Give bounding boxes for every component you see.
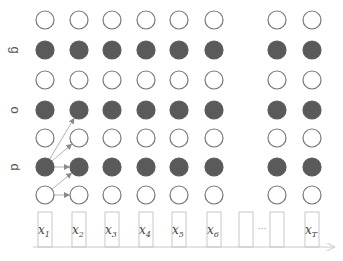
hollow-node [137, 129, 155, 147]
filled-node [70, 158, 88, 176]
hollow-node [36, 11, 54, 29]
hollow-node [36, 129, 54, 147]
hollow-node [303, 129, 321, 147]
filled-node [268, 158, 286, 176]
hollow-node [103, 71, 121, 89]
filled-node [70, 101, 88, 119]
filled-node [103, 41, 121, 59]
input-box [270, 212, 284, 247]
filled-node [170, 158, 188, 176]
filled-node [70, 41, 88, 59]
hollow-node [268, 11, 286, 29]
hollow-node [205, 129, 223, 147]
hollow-node [205, 186, 223, 204]
hollow-node [303, 186, 321, 204]
hollow-node [103, 129, 121, 147]
hollow-node [70, 71, 88, 89]
hollow-node [205, 11, 223, 29]
filled-node [303, 41, 321, 59]
hollow-node [137, 186, 155, 204]
hollow-node [170, 11, 188, 29]
character-time-diagram: god x1x2x3x4x5x6xT··· [0, 0, 343, 261]
filled-node [303, 158, 321, 176]
connection-arrow [52, 144, 72, 161]
connection-arrow [52, 173, 71, 189]
hollow-node [170, 71, 188, 89]
hollow-node [205, 71, 223, 89]
input-boxes: x1x2x3x4x5x6xT··· [38, 212, 319, 247]
hollow-node [70, 186, 88, 204]
filled-node [268, 101, 286, 119]
hollow-node [36, 186, 54, 204]
filled-node [303, 101, 321, 119]
hollow-node [303, 71, 321, 89]
arrows [50, 119, 74, 195]
hollow-node [268, 129, 286, 147]
filled-node [170, 41, 188, 59]
filled-node [36, 101, 54, 119]
filled-node [137, 101, 155, 119]
hollow-node [36, 71, 54, 89]
hollow-node [170, 186, 188, 204]
ellipsis: ··· [258, 224, 267, 234]
neuron-grid [36, 11, 321, 204]
filled-node [103, 101, 121, 119]
filled-node [36, 158, 54, 176]
filled-node [36, 41, 54, 59]
input-box [239, 212, 253, 247]
filled-node [103, 158, 121, 176]
filled-node [205, 158, 223, 176]
filled-node [205, 101, 223, 119]
hollow-node [70, 129, 88, 147]
hollow-node [137, 11, 155, 29]
row-label-o: o [8, 106, 23, 113]
filled-node [205, 41, 223, 59]
filled-node [137, 158, 155, 176]
hollow-node [303, 11, 321, 29]
filled-node [170, 101, 188, 119]
row-label-g: g [8, 46, 23, 53]
row-labels: god [8, 46, 23, 170]
filled-node [137, 41, 155, 59]
row-label-d: d [8, 163, 23, 170]
hollow-node [103, 11, 121, 29]
filled-node [268, 41, 286, 59]
hollow-node [137, 71, 155, 89]
hollow-node [103, 186, 121, 204]
hollow-node [70, 11, 88, 29]
hollow-node [268, 186, 286, 204]
hollow-node [268, 71, 286, 89]
hollow-node [170, 129, 188, 147]
